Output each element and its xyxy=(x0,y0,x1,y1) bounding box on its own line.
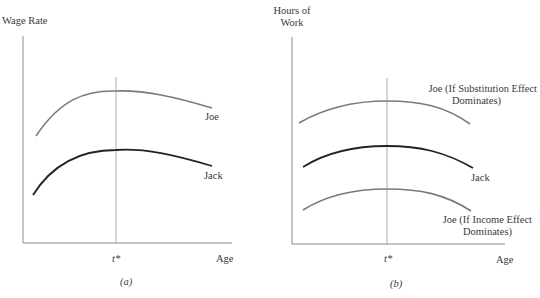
panel-b-joe-income-label-line1: Joe (If Income Effect xyxy=(400,214,532,226)
panel-b xyxy=(292,37,505,244)
panel-a-t-star-label: t* xyxy=(112,253,120,265)
panel-a-x-axis-label: Age xyxy=(216,253,234,265)
panel-b-x-axis-label: Age xyxy=(496,254,514,266)
panel-a-jack-label: Jack xyxy=(204,170,223,182)
panel-b-y-axis-label-line2: Work xyxy=(272,17,312,29)
panel-b-caption: (b) xyxy=(390,278,402,290)
panel-b-y-axis-label: Hours of Work xyxy=(272,5,312,29)
panel-b-jack-label: Jack xyxy=(471,172,490,184)
panel-a-y-axis-label: Wage Rate xyxy=(2,15,48,27)
panel-b-joe-income-label-line2: Dominates) xyxy=(400,226,532,238)
panel-b-y-axis-label-line1: Hours of xyxy=(272,5,312,17)
panel-b-jack-curve xyxy=(303,146,473,168)
panel-b-joe-substitution-label-line1: Joe (If Substitution Effect xyxy=(395,83,537,95)
diagram-canvas xyxy=(0,0,540,298)
panel-b-joe-income-label: Joe (If Income Effect Dominates) xyxy=(400,214,532,238)
panel-a-jack-curve xyxy=(33,150,212,195)
panel-a-caption: (a) xyxy=(120,276,132,288)
panel-b-joe-substitution-label: Joe (If Substitution Effect Dominates) xyxy=(395,83,537,107)
panel-a-joe-label: Joe xyxy=(205,111,219,123)
panel-b-joe-substitution-label-line2: Dominates) xyxy=(395,95,537,107)
panel-a xyxy=(23,36,232,243)
panel-a-joe-curve xyxy=(36,91,212,136)
panel-b-t-star-label: t* xyxy=(384,253,392,265)
